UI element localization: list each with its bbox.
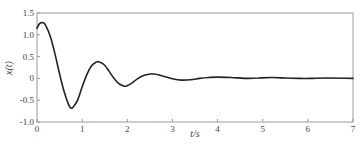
y-tick-label: -1.0 bbox=[20, 117, 35, 127]
y-tick-label: 1.5 bbox=[23, 8, 35, 18]
x-tick-label: 4 bbox=[215, 124, 220, 134]
x-tick-label: 0 bbox=[35, 124, 40, 134]
line-chart: 01234567 -1.0-0.500.51.01.5 t/s x(t) bbox=[0, 0, 361, 150]
x-axis-label: t/s bbox=[190, 128, 200, 139]
plot-frame bbox=[37, 13, 353, 122]
y-tick-label: -0.5 bbox=[20, 95, 35, 105]
x-tick-label: 7 bbox=[351, 124, 356, 134]
x-tick-label: 2 bbox=[125, 124, 130, 134]
x-tick-label: 1 bbox=[80, 124, 85, 134]
y-tick-label: 1.0 bbox=[23, 30, 35, 40]
x-tick-label: 6 bbox=[306, 124, 311, 134]
y-tick-label: 0.5 bbox=[23, 52, 35, 62]
y-tick-label: 0 bbox=[30, 73, 35, 83]
data-series-line bbox=[37, 22, 353, 108]
y-axis-label: x(t) bbox=[3, 60, 15, 76]
x-tick-label: 3 bbox=[170, 124, 175, 134]
x-tick-label: 5 bbox=[260, 124, 265, 134]
